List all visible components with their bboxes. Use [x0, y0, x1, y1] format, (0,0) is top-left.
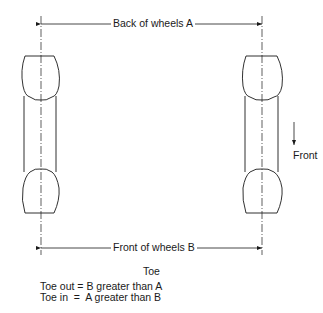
dimension-b-label: Front of wheels B [111, 241, 197, 253]
dimension-a-label: Back of wheels A [111, 17, 195, 29]
center-lines [41, 16, 262, 255]
caption-toe-in: Toe in = A greater than B [40, 292, 161, 303]
front-direction-label: Front [293, 149, 318, 161]
toe-diagram [0, 0, 323, 313]
caption-title: Toe [143, 266, 160, 277]
right-wheel [242, 56, 282, 213]
